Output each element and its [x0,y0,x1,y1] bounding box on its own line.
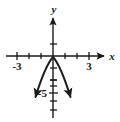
y-tick-label--5: -5 [38,87,48,99]
graph-canvas: -3 3 -5 x y [0,0,120,122]
x-tick-label--3: -3 [12,60,22,72]
parabola-right-branch [53,57,71,97]
y-axis-label: y [50,3,57,15]
parabola-graph-figure: -3 3 -5 x y [0,0,120,122]
x-tick-label-3: 3 [86,60,92,72]
x-axis-label: x [108,50,115,62]
